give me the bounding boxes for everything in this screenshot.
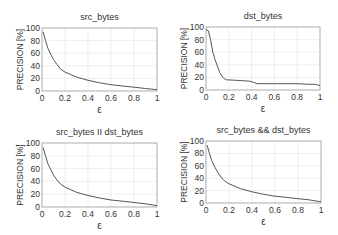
x-tick-label: 1 bbox=[155, 93, 160, 103]
y-tick-label: 80 bbox=[31, 151, 41, 161]
y-tick-label: 0 bbox=[35, 86, 40, 96]
y-tick-label: 60 bbox=[195, 161, 205, 171]
x-axis-label: ε bbox=[97, 104, 102, 115]
x-tick-label: 0.4 bbox=[246, 205, 258, 215]
subplot-title: src_bytes && dst_bytes bbox=[216, 125, 311, 135]
grid bbox=[42, 143, 157, 207]
y-axis-label: PRECISION [%] bbox=[179, 28, 189, 89]
x-tick-label: 0.4 bbox=[82, 93, 94, 103]
x-tick-label: 0.4 bbox=[82, 209, 94, 219]
y-tick-label: 20 bbox=[195, 186, 205, 196]
y-tick-label: 0 bbox=[199, 198, 204, 208]
x-tick-label: 1 bbox=[319, 205, 324, 215]
x-tick-label: 0.2 bbox=[59, 93, 71, 103]
x-tick-labels: 00.20.40.60.81 bbox=[204, 205, 324, 215]
y-tick-label: 100 bbox=[26, 23, 40, 33]
y-tick-label: 60 bbox=[31, 48, 41, 58]
subplot-title: src_bytes II dst_bytes bbox=[56, 127, 144, 137]
x-tick-label: 0.6 bbox=[105, 209, 117, 219]
y-tick-label: 20 bbox=[195, 72, 205, 82]
x-tick-label: 0.8 bbox=[291, 92, 303, 102]
y-tick-label: 40 bbox=[31, 61, 41, 71]
x-tick-label: 0.4 bbox=[246, 92, 258, 102]
y-tick-label: 20 bbox=[31, 189, 41, 199]
y-tick-label: 80 bbox=[195, 35, 205, 45]
x-tick-labels: 00.20.40.60.81 bbox=[40, 209, 160, 219]
grid bbox=[206, 27, 320, 90]
x-axis-label: ε bbox=[97, 220, 102, 231]
x-tick-labels: 00.20.40.60.81 bbox=[204, 92, 323, 102]
y-tick-label: 100 bbox=[190, 22, 204, 32]
subplot-dst-bytes: 00.20.40.60.81020406080100dst_bytesεPREC… bbox=[179, 11, 323, 114]
x-tick-label: 0.2 bbox=[59, 209, 71, 219]
y-tick-label: 100 bbox=[26, 138, 40, 148]
y-tick-label: 60 bbox=[195, 47, 205, 57]
x-tick-label: 0 bbox=[40, 209, 45, 219]
y-tick-label: 0 bbox=[199, 85, 204, 95]
y-tick-label: 40 bbox=[31, 176, 41, 186]
x-tick-labels: 00.20.40.60.81 bbox=[40, 93, 160, 103]
y-tick-labels: 020406080100 bbox=[26, 138, 40, 212]
y-tick-labels: 020406080100 bbox=[26, 23, 40, 96]
figure: 00.20.40.60.81020406080100src_bytesεPREC… bbox=[0, 0, 338, 235]
y-tick-label: 0 bbox=[35, 202, 40, 212]
x-tick-label: 0 bbox=[40, 93, 45, 103]
x-tick-label: 0.6 bbox=[268, 92, 280, 102]
x-tick-label: 0.8 bbox=[128, 93, 140, 103]
x-tick-label: 0.2 bbox=[223, 205, 235, 215]
subplot-src-bytes: 00.20.40.60.81020406080100src_bytesεPREC… bbox=[15, 12, 160, 115]
y-tick-label: 60 bbox=[31, 164, 41, 174]
x-tick-label: 0 bbox=[204, 205, 209, 215]
y-tick-label: 40 bbox=[195, 60, 205, 70]
y-axis-label: PRECISION [%] bbox=[179, 141, 189, 202]
y-axis-label: PRECISION [%] bbox=[15, 144, 25, 205]
grid bbox=[206, 141, 321, 203]
subplot-title: dst_bytes bbox=[244, 11, 283, 21]
subplot-title: src_bytes bbox=[80, 12, 119, 22]
subplot-src-and-dst-bytes: 00.20.40.60.81020406080100src_bytes && d… bbox=[179, 125, 324, 227]
y-tick-label: 80 bbox=[195, 148, 205, 158]
subplot-src-or-dst-bytes: 00.20.40.60.81020406080100src_bytes II d… bbox=[15, 127, 160, 231]
x-axis-label: ε bbox=[261, 216, 266, 227]
x-tick-label: 0.8 bbox=[292, 205, 304, 215]
x-tick-label: 0.2 bbox=[223, 92, 235, 102]
y-tick-labels: 020406080100 bbox=[190, 136, 204, 208]
y-tick-label: 20 bbox=[31, 73, 41, 83]
x-tick-label: 0.8 bbox=[128, 209, 140, 219]
x-tick-label: 1 bbox=[155, 209, 160, 219]
x-axis-label: ε bbox=[261, 103, 266, 114]
x-tick-label: 0.6 bbox=[269, 205, 281, 215]
x-tick-label: 0.6 bbox=[105, 93, 117, 103]
y-tick-label: 80 bbox=[31, 36, 41, 46]
y-axis-label: PRECISION [%] bbox=[15, 29, 25, 90]
y-tick-label: 100 bbox=[190, 136, 204, 146]
y-tick-label: 40 bbox=[195, 173, 205, 183]
grid bbox=[42, 28, 157, 91]
y-tick-labels: 020406080100 bbox=[190, 22, 204, 95]
x-tick-label: 0 bbox=[204, 92, 209, 102]
x-tick-label: 1 bbox=[318, 92, 323, 102]
